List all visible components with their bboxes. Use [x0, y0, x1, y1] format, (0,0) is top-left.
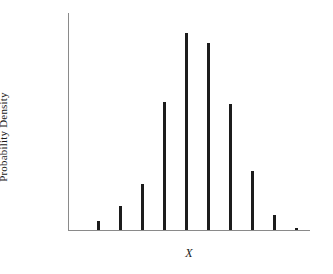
bar — [229, 104, 232, 230]
bar — [119, 206, 122, 230]
bar — [207, 43, 210, 230]
bar — [163, 102, 166, 230]
x-axis-label: X — [68, 246, 310, 261]
bar — [273, 215, 276, 230]
bar — [141, 184, 144, 230]
y-axis-label-text: Probability Density — [0, 92, 9, 182]
bar — [185, 33, 188, 231]
chart-figure: Probability Density X — [0, 0, 333, 274]
x-axis-line — [68, 230, 310, 231]
y-axis-label: Probability Density — [12, 0, 38, 274]
plot-area — [68, 13, 310, 230]
bar — [97, 221, 100, 230]
bar — [251, 171, 254, 230]
bar-series — [68, 13, 310, 230]
bar — [295, 228, 298, 230]
